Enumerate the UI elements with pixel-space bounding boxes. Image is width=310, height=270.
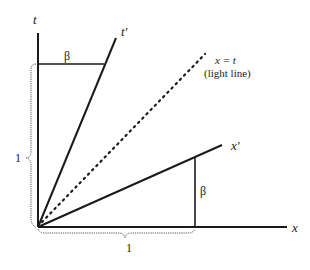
t-axis-label: t	[33, 12, 37, 27]
light-line	[42, 54, 205, 222]
beta-right-label: β	[200, 184, 206, 198]
beta-top-label: β	[64, 49, 70, 63]
light-line-note: (light line)	[204, 67, 251, 80]
vertical-unit-label: 1	[15, 151, 21, 165]
t-prime-axis-label: t′	[121, 24, 128, 39]
t-prime-axis	[38, 38, 116, 227]
x-prime-axis-label: x′	[230, 138, 240, 153]
spacetime-diagram: t t′ x x′ x = t (light line) β β 1 1	[0, 0, 310, 270]
vertical-unit-brace	[26, 64, 36, 228]
horizontal-unit-label: 1	[126, 241, 132, 255]
horizontal-unit-brace	[38, 229, 195, 238]
x-axis-label: x	[291, 220, 298, 235]
light-line-equation: x = t	[214, 54, 237, 66]
